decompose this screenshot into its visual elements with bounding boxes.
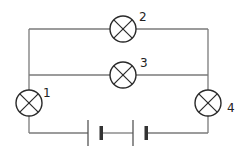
lamp-2: 2	[110, 10, 147, 42]
lamp-4: 4	[195, 90, 235, 116]
lamp-2-label: 2	[139, 10, 147, 24]
circuit-diagram: 2 3 1 4	[0, 0, 248, 156]
cell-2-negative-plate	[145, 126, 149, 140]
cell-1-negative-plate	[100, 126, 104, 140]
lamp-3-label: 3	[140, 56, 148, 70]
lamp-1: 1	[16, 86, 51, 116]
lamp-3: 3	[110, 56, 148, 88]
lamp-1-label: 1	[43, 86, 51, 100]
lamp-4-label: 4	[227, 101, 235, 115]
